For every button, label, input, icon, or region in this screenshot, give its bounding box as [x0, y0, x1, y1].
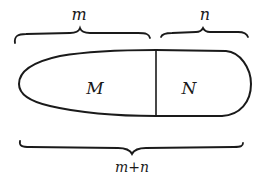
brace-m-plus-n — [20, 141, 243, 154]
region-N-label: N — [181, 78, 198, 98]
brace-m — [15, 28, 150, 43]
oval-set — [19, 50, 251, 116]
label-m-plus-n: m+n — [115, 159, 149, 175]
diagram: m n M N m+n — [0, 0, 262, 182]
region-M-label: M — [85, 78, 104, 98]
brace-n — [161, 28, 248, 37]
diagram-canvas: m n M N m+n — [0, 0, 262, 182]
label-m: m — [71, 5, 86, 24]
label-n: n — [200, 5, 210, 24]
